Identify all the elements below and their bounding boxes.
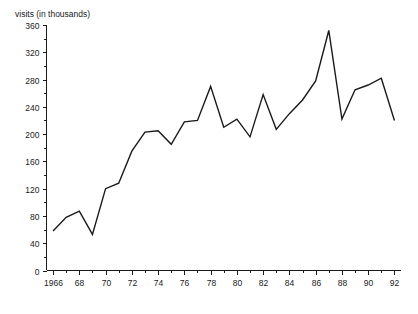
y-tick-label: 0 — [35, 267, 40, 277]
y-tick-label: 40 — [30, 239, 40, 249]
y-tick-label: 320 — [25, 48, 39, 58]
x-tick-label: 76 — [180, 278, 190, 288]
y-tick-label: 80 — [30, 212, 40, 222]
data-series-line — [53, 30, 394, 234]
x-tick-label: 70 — [102, 278, 112, 288]
x-tick-label: 84 — [285, 278, 295, 288]
y-tick-label: 360 — [25, 21, 39, 31]
chart-canvas: visits (in thousands) 040801201602002402… — [0, 0, 418, 314]
x-tick-label: 72 — [128, 278, 138, 288]
x-tick-label: 68 — [75, 278, 85, 288]
x-tick-label: 86 — [312, 278, 322, 288]
y-axis-title: visits (in thousands) — [15, 9, 90, 19]
x-tick-label: 92 — [390, 278, 400, 288]
x-tick-label: 78 — [207, 278, 217, 288]
y-tick-label: 120 — [25, 185, 39, 195]
line-chart: visits (in thousands) 040801201602002402… — [0, 0, 418, 314]
y-tick-label: 240 — [25, 103, 39, 113]
x-axis-ticks — [54, 271, 395, 275]
y-axis-tick-labels: 04080120160200240280320360 — [25, 21, 39, 277]
x-tick-label: 82 — [259, 278, 269, 288]
x-tick-label: 80 — [233, 278, 243, 288]
x-tick-label: 88 — [338, 278, 348, 288]
y-tick-label: 200 — [25, 130, 39, 140]
x-tick-label: 74 — [154, 278, 164, 288]
y-tick-label: 160 — [25, 157, 39, 167]
x-axis-tick-labels: 196668707274767880828486889092 — [44, 278, 399, 288]
y-tick-label: 280 — [25, 76, 39, 86]
y-axis-ticks — [43, 26, 47, 272]
x-tick-label: 1966 — [44, 278, 63, 288]
x-tick-label: 90 — [364, 278, 374, 288]
